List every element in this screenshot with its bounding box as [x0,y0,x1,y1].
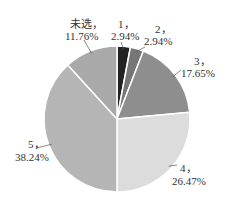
label-1-pct: 2.94% [111,30,139,42]
label-5-pct: 38.24% [15,151,49,163]
label-2-name: 2， [155,23,172,35]
label-unselected-pct: 11.76% [65,30,99,42]
label-unselected-name: 未选， [70,18,103,30]
label-3-pct: 17.65% [181,67,215,79]
label-4-pct: 26.47% [172,175,206,187]
label-5-name: 5， [28,138,45,150]
label-4-name: 4， [180,162,197,174]
label-3-name: 3， [194,55,211,67]
pie-chart: 1， 2.94% 2， 2.94% 3， 17.65% 4， 26.47% 5，… [0,0,230,204]
label-2-pct: 2.94% [144,35,172,47]
label-1-name: 1， [118,18,135,30]
pie-slices [44,46,190,192]
